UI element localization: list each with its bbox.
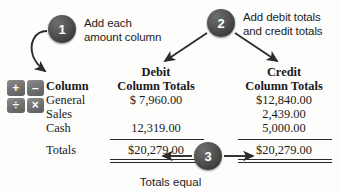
arrow-down-left-icon	[165, 33, 207, 61]
debit-total-rule-1	[110, 159, 204, 160]
table-header-row-1: Debit Credit	[46, 66, 338, 80]
credit-total-rule-1	[238, 159, 332, 160]
credit-header-line2: Column Totals	[232, 80, 336, 93]
calculator-key-multiply: ×	[27, 98, 45, 114]
credit-header-line1: Credit	[232, 66, 336, 79]
step-badge-1: 1	[48, 15, 76, 43]
curved-arrow-down-left-icon	[32, 31, 47, 71]
totals-debit: $20,279.00	[104, 144, 208, 157]
step-badge-1-number: 1	[58, 21, 65, 36]
step-1-text-line1: Add each	[84, 17, 132, 31]
totals-double-rule-row	[46, 158, 338, 166]
step-2-text-line2: and credit totals	[243, 25, 323, 39]
totals-credit: $20,279.00	[232, 144, 336, 157]
row-label-sales: Sales	[46, 108, 72, 121]
table-row: Sales 2,439.00	[46, 108, 338, 122]
credit-subtotal-rule	[238, 139, 332, 140]
calculator-key-divide: ÷	[7, 98, 25, 114]
debit-subtotal-rule	[110, 139, 204, 140]
step-badge-2: 2	[207, 9, 235, 37]
row-credit-cash: 5,000.00	[232, 122, 336, 135]
debit-header-line1: Debit	[104, 66, 208, 79]
step-1-text-line2: amount column	[84, 31, 161, 45]
totals-label: Totals	[46, 144, 76, 157]
row-label-general: General	[46, 94, 85, 107]
row-credit-general: $12,840.00	[232, 94, 336, 107]
step-badge-3: 3	[194, 142, 222, 170]
journal-totals-figure: 1 Add each amount column 2 Add debit tot…	[0, 0, 341, 194]
credit-total-rule-2	[238, 162, 332, 163]
table-header-row-2: Column Column Totals Column Totals	[46, 80, 338, 94]
row-debit-general: $ 7,960.00	[104, 94, 208, 107]
table-row: General $ 7,960.00 $12,840.00	[46, 94, 338, 108]
debit-header-line2: Column Totals	[104, 80, 208, 93]
column-header-label: Column	[46, 80, 89, 93]
debit-total-rule-2	[110, 162, 204, 163]
totals-equal-caption: Totals equal	[0, 176, 341, 188]
row-debit-cash: 12,319.00	[104, 122, 208, 135]
calculator-key-plus: +	[7, 80, 25, 96]
step-2-text-line1: Add debit totals	[243, 11, 321, 25]
journal-totals-table: Debit Credit Column Column Totals Column…	[46, 66, 338, 166]
table-totals-row: Totals $20,279.00 $20,279.00	[46, 144, 338, 158]
step-badge-2-number: 2	[217, 15, 224, 30]
calculator-icon: + – ÷ ×	[7, 80, 44, 113]
table-row: Cash 12,319.00 5,000.00	[46, 122, 338, 136]
step-badge-3-number: 3	[204, 148, 211, 163]
row-label-cash: Cash	[46, 122, 71, 135]
row-credit-sales: 2,439.00	[232, 108, 336, 121]
calculator-key-minus: –	[27, 80, 45, 96]
